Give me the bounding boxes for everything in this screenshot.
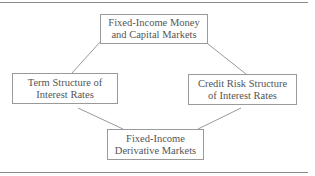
node-money-capital-markets: Fixed-Income Money and Capital Markets	[100, 14, 208, 44]
node-label-line: and Capital Markets	[111, 29, 196, 41]
node-derivative-markets: Fixed-Income Derivative Markets	[107, 129, 204, 160]
edge-money-to-credit	[208, 44, 246, 74]
node-label-line: Credit Risk Structure	[198, 78, 287, 90]
node-term-structure: Term Structure of Interest Rates	[12, 73, 118, 104]
node-label-line: Fixed-Income	[126, 133, 185, 145]
edge-money-to-term	[72, 41, 101, 73]
edge-term-to-derivatives	[78, 108, 123, 129]
node-label-line: Fixed-Income Money	[108, 17, 199, 29]
bottom-rule	[0, 172, 308, 173]
edge-credit-to-derivatives	[198, 108, 241, 129]
node-credit-risk-structure: Credit Risk Structure of Interest Rates	[188, 74, 297, 105]
node-label-line: Interest Rates	[36, 89, 93, 101]
node-label-line: of Interest Rates	[208, 90, 277, 102]
node-label-line: Term Structure of	[28, 77, 103, 89]
node-label-line: Derivative Markets	[115, 145, 196, 157]
